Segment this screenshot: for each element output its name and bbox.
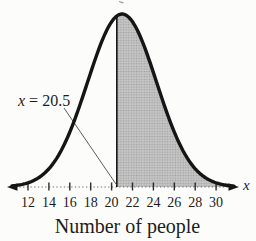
x-tick-label: 30 xyxy=(209,195,223,210)
x-tick-label: 20 xyxy=(105,195,119,210)
x-tick-label: 22 xyxy=(126,195,140,210)
x-tick-label: 24 xyxy=(146,195,160,210)
annotation-label: x = 20.5 xyxy=(17,92,70,109)
x-tick-label: 26 xyxy=(167,195,181,210)
normal-curve-figure: x = 20.5 12141618202224262830 x Number o… xyxy=(0,0,256,241)
x-axis-title: Number of people xyxy=(55,215,201,238)
x-tick-label: 16 xyxy=(63,195,77,210)
x-tick-label: 14 xyxy=(42,195,56,210)
chart-svg: x = 20.5 12141618202224262830 x Number o… xyxy=(0,0,256,241)
x-tick-label: 12 xyxy=(21,195,35,210)
x-axis-letter: x xyxy=(242,177,250,193)
x-tick-label: 28 xyxy=(188,195,202,210)
x-tick-label: 18 xyxy=(84,195,98,210)
